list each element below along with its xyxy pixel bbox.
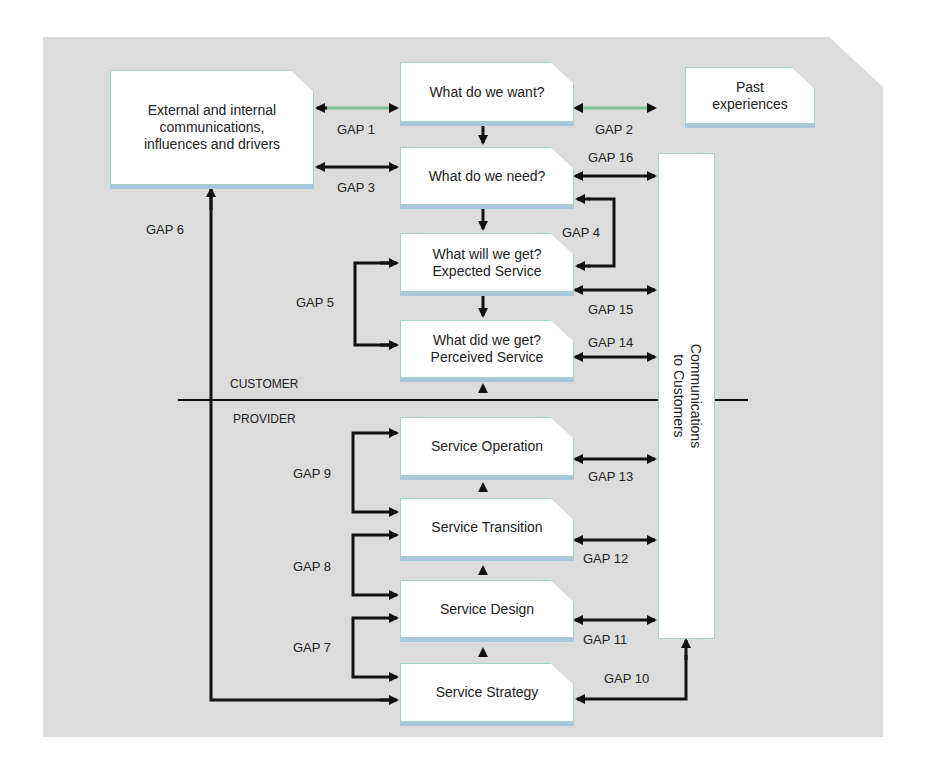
service-design-box: Service Design (400, 580, 574, 638)
past-experiences-box: Past experiences (685, 67, 815, 124)
gap-2-label: GAP 2 (595, 122, 633, 137)
service-transition-box: Service Transition (400, 498, 574, 557)
gap-1-label: GAP 1 (337, 122, 375, 137)
gap-9-label: GAP 9 (293, 466, 331, 481)
box-text: influences and drivers (144, 136, 280, 153)
communications-to-customers-box: Communications to Customers (658, 153, 715, 639)
gap-6-label: GAP 6 (146, 222, 184, 237)
box-text: What will we get? (433, 246, 542, 263)
what-do-we-want-box: What do we want? (400, 62, 574, 122)
box-text: communications, (144, 119, 280, 136)
box-text: experiences (712, 96, 788, 113)
box-text: Past (712, 79, 788, 96)
box-text: Service Design (440, 601, 534, 618)
gap-8-label: GAP 8 (293, 559, 331, 574)
service-strategy-box: Service Strategy (400, 663, 574, 722)
perceived-service-box: What did we get? Perceived Service (400, 320, 574, 378)
gap-7-label: GAP 7 (293, 640, 331, 655)
box-text: What did we get? (431, 332, 544, 349)
expected-service-box: What will we get? Expected Service (400, 233, 574, 292)
gap-16-label: GAP 16 (588, 150, 633, 165)
box-text: Service Operation (431, 438, 543, 455)
box-text: Perceived Service (431, 349, 544, 366)
box-text: What do we want? (429, 84, 544, 101)
gap-15-label: GAP 15 (588, 302, 633, 317)
gap-4-label: GAP 4 (562, 225, 600, 240)
customer-label: CUSTOMER (230, 377, 298, 391)
box-text: Expected Service (433, 263, 542, 280)
gap-3-label: GAP 3 (337, 180, 375, 195)
external-influences-box: External and internal communications, in… (110, 70, 314, 185)
gap-5-label: GAP 5 (296, 295, 334, 310)
box-text: What do we need? (429, 168, 546, 185)
box-text: Service Transition (431, 519, 542, 536)
gap-14-label: GAP 14 (588, 335, 633, 350)
gap-11-label: GAP 11 (583, 632, 627, 647)
gap-13-label: GAP 13 (588, 469, 633, 484)
gap-12-label: GAP 12 (583, 551, 628, 566)
gap-10-label: GAP 10 (604, 671, 649, 686)
service-operation-box: Service Operation (400, 417, 574, 476)
box-text: Service Strategy (436, 684, 539, 701)
box-text: Communications (687, 344, 704, 448)
provider-label: PROVIDER (233, 412, 296, 426)
box-text: to Customers (670, 344, 687, 448)
box-text: External and internal (144, 102, 280, 119)
what-do-we-need-box: What do we need? (400, 147, 574, 205)
